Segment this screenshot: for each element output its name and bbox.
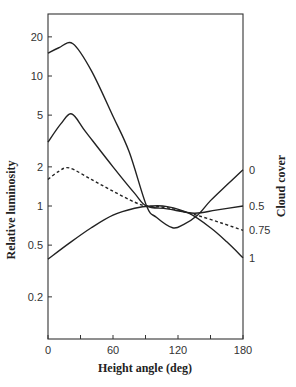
cloud-cover-axis-title: Cloud cover bbox=[274, 154, 288, 217]
y-tick-label: 20 bbox=[31, 31, 43, 43]
series-lines bbox=[48, 43, 243, 260]
cloud-cover-label: 1 bbox=[249, 252, 255, 264]
series-line-0-75 bbox=[48, 168, 243, 231]
cloud-cover-label: 0.75 bbox=[249, 224, 270, 236]
x-tick-label: 180 bbox=[234, 344, 252, 356]
x-tick-label: 0 bbox=[45, 344, 51, 356]
y-tick-label: 0.2 bbox=[28, 291, 43, 303]
cloud-cover-label: 0.5 bbox=[249, 200, 264, 212]
x-tick-label: 60 bbox=[107, 344, 119, 356]
cloud-cover-labels: 00.50.751 bbox=[249, 164, 270, 264]
y-tick-label: 2 bbox=[37, 161, 43, 173]
y-tick-label: 10 bbox=[31, 70, 43, 82]
y-tick-label: 1 bbox=[37, 200, 43, 212]
y-tick-label: 0.5 bbox=[28, 239, 43, 251]
y-axis-title: Relative luminosity bbox=[4, 161, 18, 260]
cloud-cover-label: 0 bbox=[249, 164, 255, 176]
x-axis-title: Height angle (deg) bbox=[98, 361, 192, 375]
series-line-0 bbox=[48, 43, 243, 229]
plot-frame bbox=[48, 14, 243, 339]
y-tick-label: 5 bbox=[37, 109, 43, 121]
series-line-1 bbox=[48, 206, 243, 259]
x-axis-ticks: 060120180 bbox=[45, 335, 252, 356]
x-tick-label: 120 bbox=[169, 344, 187, 356]
chart: 0.20.51251020 060120180 00.50.751 Height… bbox=[0, 0, 296, 387]
